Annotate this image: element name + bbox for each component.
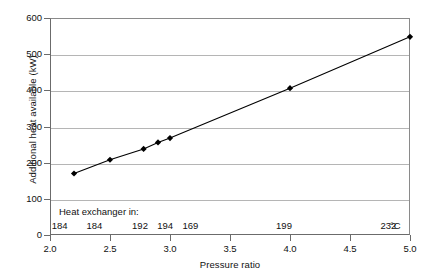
annotation-unit-label: °C (390, 220, 401, 231)
y-axis-tick (44, 163, 50, 164)
y-axis-tick (44, 54, 50, 55)
y-axis-tick-label: 100 (2, 193, 42, 204)
y-axis-tick-label: 0 (2, 229, 42, 240)
x-axis-tick-label: 5.0 (390, 243, 430, 254)
gridline (51, 128, 409, 129)
x-axis-tick-label: 3.0 (150, 243, 190, 254)
x-axis-tick (110, 235, 111, 241)
x-axis-tick-label: 2.5 (90, 243, 130, 254)
y-axis-tick (44, 18, 50, 19)
y-axis-tick-label: 300 (2, 121, 42, 132)
gridline (51, 55, 409, 56)
x-axis-title: Pressure ratio (50, 259, 410, 270)
x-axis-tick-label: 3.5 (210, 243, 250, 254)
y-axis-tick (44, 199, 50, 200)
x-axis-tick (230, 235, 231, 241)
y-axis-tick (44, 90, 50, 91)
y-axis-tick-label: 200 (2, 157, 42, 168)
x-axis-tick-label: 2.0 (30, 243, 70, 254)
y-axis-tick-label: 400 (2, 84, 42, 95)
gridline (51, 164, 409, 165)
annotation-value: 184 (77, 220, 111, 231)
x-axis-tick-label: 4.0 (270, 243, 310, 254)
annotation-value: 184 (43, 220, 77, 231)
annotation-value: 169 (173, 220, 207, 231)
x-axis-tick (290, 235, 291, 241)
x-axis-tick (410, 235, 411, 241)
annotation-value: 199 (267, 220, 301, 231)
x-axis-tick (50, 235, 51, 241)
x-axis-tick (350, 235, 351, 241)
gridline (51, 200, 409, 201)
y-axis-tick-label: 600 (2, 12, 42, 23)
plot-area (50, 18, 410, 235)
x-axis-tick (170, 235, 171, 241)
y-axis-tick (44, 127, 50, 128)
y-axis-tick-label: 500 (2, 48, 42, 59)
gridline (51, 91, 409, 92)
chart-figure: Additional heat available (kW) Pressure … (0, 0, 431, 279)
annotation-heading: Heat exchanger in: (59, 206, 139, 217)
x-axis-tick-label: 4.5 (330, 243, 370, 254)
